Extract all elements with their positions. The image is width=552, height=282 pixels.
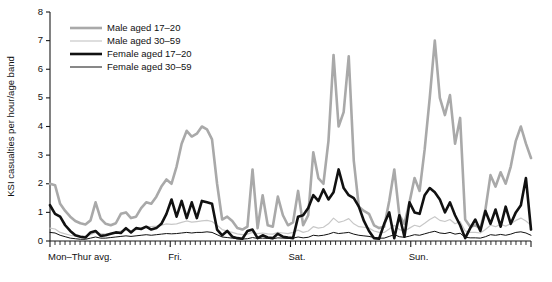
- y-axis-title-text: KSI casualties per hour/age band: [5, 56, 16, 196]
- y-tick-label: 5: [38, 91, 43, 102]
- y-axis-title: KSI casualties per hour/age band: [5, 56, 16, 196]
- x-axis: Mon–Thur avg.Fri.Sat.Sun.: [48, 241, 531, 262]
- chart-legend: Male aged 17–20Male aged 30–59Female age…: [70, 22, 192, 72]
- ksi-casualties-line-chart: 012345678 Mon–Thur avg.Fri.Sat.Sun. Male…: [0, 0, 552, 282]
- y-tick-label: 4: [38, 120, 43, 131]
- x-group-label: Sat.: [289, 251, 306, 262]
- y-tick-label: 0: [38, 235, 43, 246]
- y-axis: 012345678: [38, 6, 50, 246]
- chart-container: 012345678 Mon–Thur avg.Fri.Sat.Sun. Male…: [0, 0, 552, 282]
- x-group-label: Fri.: [168, 251, 182, 262]
- x-group-label: Sun.: [409, 251, 429, 262]
- y-tick-label: 6: [38, 63, 43, 74]
- legend-label: Female aged 17–20: [107, 48, 192, 59]
- y-tick-label: 2: [38, 177, 43, 188]
- series-line: [50, 169, 531, 238]
- y-tick-label: 8: [38, 6, 43, 17]
- y-tick-label: 3: [38, 149, 43, 160]
- x-group-label: Mon–Thur avg.: [48, 251, 112, 262]
- y-tick-label: 1: [38, 206, 43, 217]
- legend-label: Male aged 17–20: [107, 22, 180, 33]
- y-tick-label: 7: [38, 34, 43, 45]
- legend-label: Female aged 30–59: [107, 61, 192, 72]
- legend-label: Male aged 30–59: [107, 35, 180, 46]
